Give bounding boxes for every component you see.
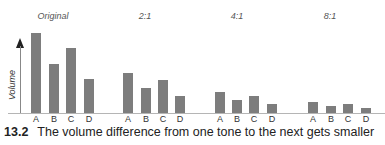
category-label: C	[249, 114, 259, 124]
bar-d	[84, 79, 94, 113]
bar-a	[215, 92, 225, 113]
bar-c	[249, 96, 259, 113]
bar-a	[123, 73, 133, 113]
bar-c	[66, 48, 76, 113]
category-label: B	[49, 114, 59, 124]
caption-number: 13.2	[4, 125, 28, 139]
category-label: A	[31, 114, 41, 124]
bar-c	[158, 80, 168, 113]
category-label: D	[175, 114, 185, 124]
category-label: B	[232, 114, 242, 124]
category-label: D	[361, 114, 371, 124]
category-label: D	[84, 114, 94, 124]
figure: Volume OriginalABCD2:1ABCD4:1ABCD8:1ABCD…	[0, 0, 385, 145]
bar-d	[175, 96, 185, 113]
bar-d	[361, 108, 371, 113]
bar-b	[49, 64, 59, 113]
category-label: D	[267, 114, 277, 124]
panel-title: Original	[23, 11, 83, 21]
category-label: B	[141, 114, 151, 124]
caption-text: The volume difference from one tone to t…	[37, 125, 374, 139]
category-label: C	[343, 114, 353, 124]
y-axis	[20, 46, 21, 113]
y-axis-label: Volume	[7, 65, 17, 105]
category-label: A	[308, 114, 318, 124]
category-label: C	[66, 114, 76, 124]
bar-a	[31, 33, 41, 113]
bar-b	[232, 100, 242, 113]
category-label: B	[326, 114, 336, 124]
figure-caption: 13.2The volume difference from one tone …	[4, 125, 374, 139]
panel-title: 2:1	[115, 11, 175, 21]
panel-title: 8:1	[300, 11, 360, 21]
panel-title: 4:1	[207, 11, 267, 21]
bar-a	[308, 102, 318, 113]
bar-b	[326, 106, 336, 113]
category-label: A	[215, 114, 225, 124]
bar-b	[141, 88, 151, 113]
bar-c	[343, 104, 353, 113]
category-label: C	[158, 114, 168, 124]
category-label: A	[123, 114, 133, 124]
bar-d	[267, 104, 277, 113]
